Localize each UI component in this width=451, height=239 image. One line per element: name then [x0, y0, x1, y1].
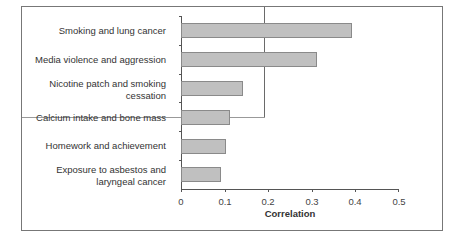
chart-container: Smoking and lung cancer Media violence a… [0, 0, 451, 239]
x-tick-label: 0.1 [218, 196, 231, 207]
category-label: Homework and achievement [46, 140, 166, 152]
category-label: Calcium intake and bone mass [36, 112, 166, 124]
category-label: Media violence and aggression [35, 54, 166, 66]
category-label: Exposure to asbestos and [56, 164, 166, 176]
x-tick-label: 0.2 [261, 196, 274, 207]
x-axis-title: Correlation [265, 208, 316, 219]
category-label: cessation [126, 90, 166, 102]
x-tick-label: 0.3 [305, 196, 318, 207]
x-tick-label: 0.5 [392, 196, 405, 207]
category-label: laryngeal cancer [96, 176, 166, 188]
x-tick-label: 0.4 [348, 196, 361, 207]
category-label: Nicotine patch and smoking [49, 78, 166, 90]
x-tick-label: 0 [178, 196, 183, 207]
category-label: Smoking and lung cancer [59, 25, 166, 37]
